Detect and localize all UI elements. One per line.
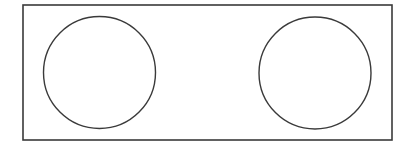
frame-rectangle [23, 5, 392, 140]
diagram-canvas [0, 0, 416, 146]
left-circle [44, 17, 156, 129]
right-circle [259, 17, 371, 129]
